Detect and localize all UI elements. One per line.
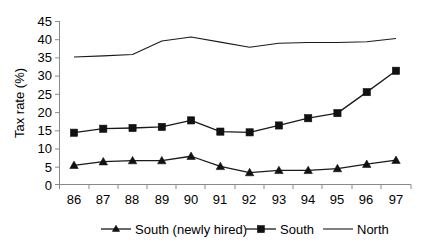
y-tick-label: 20 [38,105,52,120]
y-tick-label: 40 [38,32,52,47]
series-line [74,156,396,172]
square-marker [129,124,136,131]
square-marker [217,128,224,135]
square-marker [334,110,341,117]
legend-item-north[interactable]: North [323,222,389,237]
legend-item-south-newly-hired[interactable]: South (newly hired) [101,222,247,237]
y-tick-label: 15 [38,123,52,138]
series-north [74,37,396,57]
x-axis-tick-labels: 86 87 88 89 90 91 92 93 94 95 96 97 [67,192,403,207]
legend: South (newly hired) South North [101,222,389,237]
legend-label: South (newly hired) [135,222,247,237]
x-tick-label: 91 [213,192,227,207]
x-tick-label: 89 [155,192,169,207]
square-marker [158,123,165,130]
y-tick-label: 10 [38,141,52,156]
x-tick-label: 97 [389,192,403,207]
x-tick-label: 88 [125,192,139,207]
square-marker [275,122,282,129]
series-line [74,37,396,57]
x-tick-label: 94 [301,192,315,207]
x-tick-label: 87 [96,192,110,207]
triangle-marker-icon [112,225,119,231]
y-axis-tick-labels: 45 40 35 30 25 20 15 10 5 0 [38,14,52,193]
y-tick-label: 5 [45,160,52,175]
square-marker [363,89,370,96]
y-axis-title: Tax rate (%) [12,68,27,138]
square-marker-icon [257,226,264,233]
square-marker [246,129,253,136]
series-south-newly-hired [70,152,400,176]
legend-label: South [280,222,314,237]
legend-item-south[interactable]: South [246,222,314,237]
x-tick-label: 95 [330,192,344,207]
y-tick-label: 25 [38,87,52,102]
chart-container: 45 40 35 30 25 20 15 10 5 0 Tax rate (%) [0,0,426,250]
y-tick-label: 30 [38,68,52,83]
triangle-marker [392,156,400,163]
legend-label: North [357,222,389,237]
x-axis [60,185,412,190]
square-marker [392,67,399,74]
series-line [74,71,396,133]
y-axis [55,21,60,185]
x-tick-label: 92 [242,192,256,207]
square-marker [305,115,312,122]
x-tick-label: 86 [67,192,81,207]
y-tick-label: 45 [38,14,52,29]
square-marker [100,125,107,132]
y-tick-label: 0 [45,178,52,193]
triangle-marker [187,152,195,159]
square-marker [70,129,77,136]
line-chart: 45 40 35 30 25 20 15 10 5 0 Tax rate (%) [0,0,426,250]
x-tick-label: 96 [359,192,373,207]
y-tick-label: 35 [38,50,52,65]
series-south [70,67,399,136]
x-tick-label: 90 [184,192,198,207]
plot-series-group [70,37,400,176]
square-marker [187,117,194,124]
x-tick-label: 93 [272,192,286,207]
